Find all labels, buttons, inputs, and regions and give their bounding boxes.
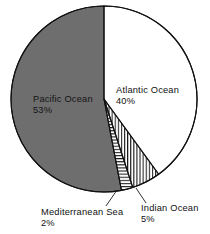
pie-chart-figure: Atlantic Ocean40%Indian Ocean5%Mediterra… [0, 0, 210, 234]
slice-label-name: Mediterranean Sea [41, 207, 124, 217]
slice-label-name: Atlantic Ocean [116, 85, 179, 95]
slice-label-value: 2% [41, 218, 55, 228]
leader-line-indian-ocean [136, 188, 146, 203]
slice-label-value: 40% [116, 96, 135, 106]
ocean-area-pie-chart: Atlantic Ocean40%Indian Ocean5%Mediterra… [0, 0, 210, 234]
slice-label-name: Pacific Ocean [33, 94, 93, 104]
slice-label-value: 5% [141, 214, 155, 224]
slice-label-value: 53% [33, 105, 52, 115]
slice-label-name: Indian Ocean [141, 203, 199, 213]
